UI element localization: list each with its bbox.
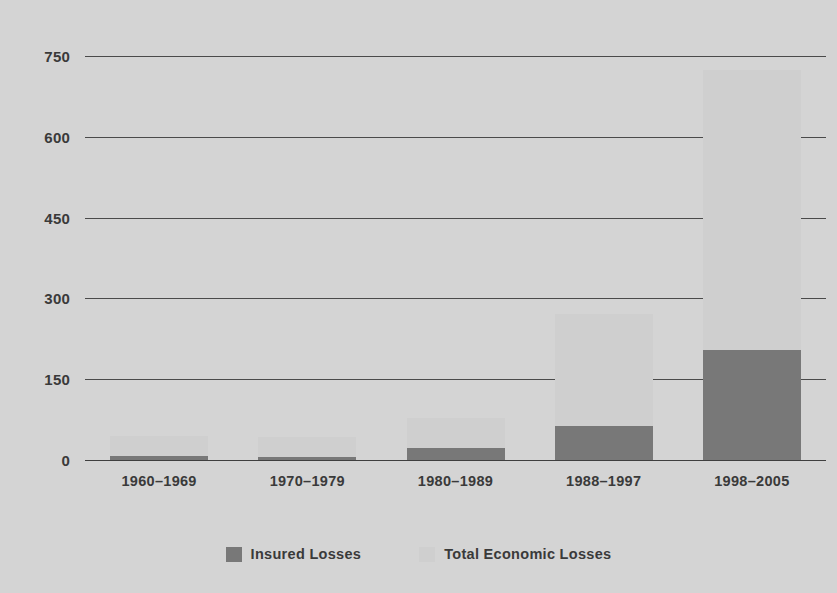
x-axis-tick-labels: 1960–19691970–19791980–19891988–19971998… <box>85 472 826 496</box>
y-tick-label-150: 150 <box>44 372 70 387</box>
bar-insured-losses[interactable] <box>703 350 801 460</box>
bar-insured-losses[interactable] <box>110 456 208 460</box>
legend-swatch-icon <box>226 547 242 562</box>
y-tick-label-750: 750 <box>44 49 70 64</box>
bar-group[interactable] <box>555 40 653 460</box>
x-tick-label-5: 1998–2005 <box>678 472 826 491</box>
x-tick-label-3: 1980–1989 <box>381 472 529 491</box>
x-tick-label-4: 1988–1997 <box>530 472 678 491</box>
bar-group[interactable] <box>407 40 505 460</box>
plot-area <box>85 40 826 460</box>
legend-item-2[interactable]: Total Economic Losses <box>419 547 611 562</box>
bar-insured-losses[interactable] <box>258 457 356 460</box>
y-tick-label-0: 0 <box>61 453 70 468</box>
y-axis-tick-labels: 0150300450600750 <box>0 40 70 460</box>
y-tick-label-300: 300 <box>44 291 70 306</box>
bar-insured-losses[interactable] <box>555 426 653 460</box>
bar-group[interactable] <box>258 40 356 460</box>
y-tick-label-450: 450 <box>44 211 70 226</box>
legend-label: Insured Losses <box>251 547 362 562</box>
chart-legend: Insured LossesTotal Economic Losses <box>0 541 837 567</box>
x-tick-label-2: 1970–1979 <box>233 472 381 491</box>
gridline-0 <box>85 460 826 461</box>
legend-label: Total Economic Losses <box>444 547 611 562</box>
legend-item-1[interactable]: Insured Losses <box>226 547 362 562</box>
x-tick-label-1: 1960–1969 <box>85 472 233 491</box>
legend-swatch-icon <box>419 547 435 562</box>
y-tick-label-600: 600 <box>44 130 70 145</box>
bar-group[interactable] <box>110 40 208 460</box>
bar-chart: 0150300450600750 1960–19691970–19791980–… <box>0 0 837 593</box>
bar-insured-losses[interactable] <box>407 448 505 460</box>
bar-group[interactable] <box>703 40 801 460</box>
